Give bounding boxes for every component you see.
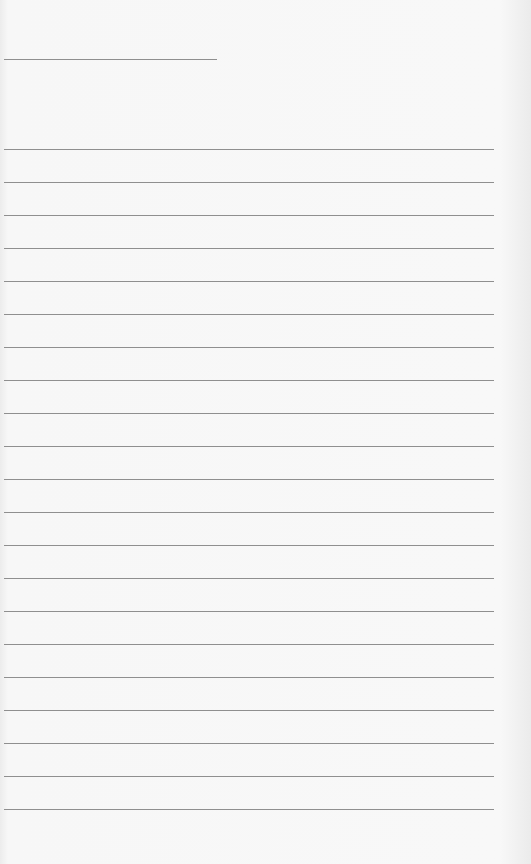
ruled-line [4, 545, 494, 546]
name-line [4, 59, 217, 60]
ruled-line [4, 182, 494, 183]
ruled-line [4, 347, 494, 348]
ruled-line [4, 710, 494, 711]
ruled-line [4, 743, 494, 744]
ruled-line [4, 314, 494, 315]
ruled-line [4, 776, 494, 777]
ruled-line [4, 644, 494, 645]
ruled-line [4, 677, 494, 678]
ruled-line [4, 413, 494, 414]
ruled-line [4, 479, 494, 480]
lined-paper-page [0, 0, 531, 864]
ruled-line [4, 611, 494, 612]
ruled-line [4, 281, 494, 282]
ruled-line [4, 149, 494, 150]
ruled-line [4, 512, 494, 513]
ruled-line [4, 248, 494, 249]
ruled-line [4, 380, 494, 381]
ruled-line [4, 446, 494, 447]
ruled-line [4, 215, 494, 216]
ruled-line [4, 809, 494, 810]
ruled-line [4, 578, 494, 579]
